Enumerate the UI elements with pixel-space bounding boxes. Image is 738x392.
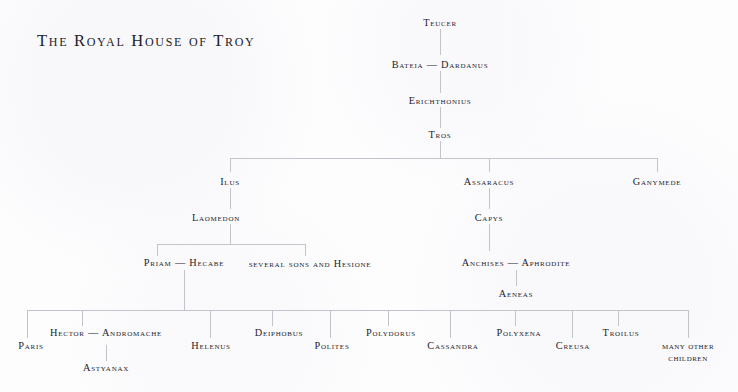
node-laomedon: Laomedon	[192, 212, 240, 225]
node-polites: Polites	[314, 340, 349, 353]
node-helenus: Helenus	[191, 340, 231, 353]
node-paris: Paris	[18, 340, 43, 353]
connector-dardanus-erichthonius	[440, 71, 441, 93]
connector-anchises-aeneas	[516, 270, 517, 286]
connector-bar-to-polydorus	[388, 310, 389, 326]
node-many-other-children: many other children	[662, 340, 714, 364]
connector-bar-to-cassandra	[450, 310, 451, 338]
connector-bar-to-assaracus	[489, 158, 490, 172]
connector-bar-to-helenus	[210, 310, 211, 338]
connector-bar-to-deiphobus	[272, 310, 273, 326]
node-astyanax: Astyanax	[83, 362, 129, 375]
node-cassandra: Cassandra	[427, 340, 478, 353]
connector-bar-to-several-sons	[305, 244, 306, 256]
node-anchises-aphrodite: Anchises — Aphrodite	[462, 257, 571, 270]
node-polydorus: Polydorus	[366, 327, 416, 340]
node-hector-andromache: Hector — Andromache	[50, 327, 162, 340]
connector-bar-to-creusa	[572, 310, 573, 338]
node-several-sons-and-hesione: several sons and Hesione	[249, 258, 372, 271]
node-creusa: Creusa	[556, 340, 590, 353]
node-polyxena: Polyxena	[497, 327, 542, 340]
node-tros: Tros	[429, 129, 452, 142]
connector-bar-to-priam	[157, 244, 158, 256]
sibling-bar-laomedon-children	[157, 244, 305, 245]
connector-bar-to-paris	[27, 310, 28, 338]
many-other-children-line-2: children	[662, 352, 714, 364]
node-bateia-dardanus: Bateia — Dardanus	[392, 59, 489, 72]
connector-teucer-dardanus	[440, 29, 441, 55]
node-aeneas: Aeneas	[499, 288, 534, 301]
node-priam-hecabe: Priam — Hecabe	[144, 257, 224, 270]
connector-laomedon-down	[230, 224, 231, 244]
node-erichthonius: Erichthonius	[409, 95, 472, 108]
sibling-bar-tros-children	[230, 158, 658, 159]
many-other-children-line-1: many other	[662, 340, 714, 352]
connector-bar-to-polyxena	[515, 310, 516, 326]
connector-bar-to-troilus	[618, 310, 619, 326]
node-ganymede: Ganymede	[633, 176, 681, 189]
family-tree-diagram: The Royal House of Troy Teucer Bateia — …	[0, 0, 738, 392]
connector-bar-to-many-other-children	[688, 310, 689, 338]
node-troilus: Troilus	[603, 327, 640, 340]
connector-ilus-laomedon	[230, 188, 231, 209]
connector-erichthonius-tros	[440, 107, 441, 128]
node-deiphobus: Deiphobus	[255, 327, 303, 340]
node-teucer: Teucer	[423, 17, 457, 30]
connector-bar-to-ganymede	[657, 158, 658, 172]
connector-assaracus-capys	[489, 188, 490, 209]
connector-bar-to-hector	[82, 310, 83, 326]
connector-capys-anchises	[489, 224, 490, 251]
connector-priam-down	[184, 270, 185, 310]
node-capys: Capys	[475, 212, 504, 225]
sibling-bar-priam-children	[27, 310, 688, 311]
page-title: The Royal House of Troy	[37, 31, 255, 51]
node-assaracus: Assaracus	[464, 176, 514, 189]
connector-tros-down	[440, 141, 441, 158]
connector-bar-to-ilus	[230, 158, 231, 172]
connector-bar-to-polites	[330, 310, 331, 338]
connector-hector-astyanax	[106, 345, 107, 361]
node-ilus: Ilus	[220, 176, 240, 189]
